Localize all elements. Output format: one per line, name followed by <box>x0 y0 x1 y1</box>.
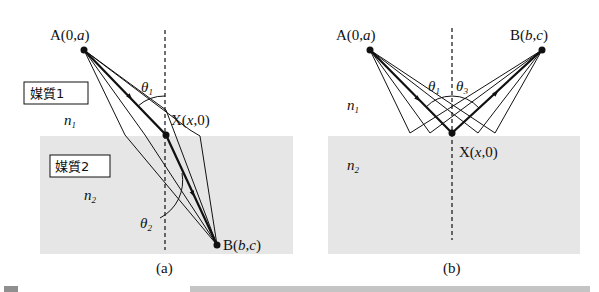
point-B-a <box>214 242 221 249</box>
n1-label-b: n1 <box>347 97 359 115</box>
point-X-b <box>449 130 456 137</box>
medium1-label: 媒質1 <box>30 86 64 101</box>
figure-a: A(0,a) X(x,0) B(b,c) θ1 θ2 媒質1 媒質2 n1 n2… <box>24 27 293 277</box>
point-B-b <box>539 47 546 54</box>
label-A-b: A(0,a) <box>336 27 376 44</box>
point-A-a <box>81 47 88 54</box>
medium2-label: 媒質2 <box>55 159 89 174</box>
figure-b: A(0,a) B(b,c) X(x,0) θ1 θ3 n1 n2 (b) <box>328 27 580 277</box>
theta1-label-a: θ1 <box>141 79 153 97</box>
point-X-a <box>163 132 170 139</box>
label-X-b: X(x,0) <box>459 144 498 161</box>
cutoff-caption-strip <box>0 286 599 292</box>
diagram-canvas: A(0,a) X(x,0) B(b,c) θ1 θ2 媒質1 媒質2 n1 n2… <box>0 0 599 292</box>
medium2-region-b <box>328 136 580 254</box>
caption-b: (b) <box>443 260 461 277</box>
label-A-a: A(0,a) <box>50 27 90 44</box>
caption-a: (a) <box>156 260 173 277</box>
label-B-a: B(b,c) <box>223 237 261 254</box>
theta1-label-b: θ1 <box>428 78 440 96</box>
theta3-label-b: θ3 <box>456 78 468 96</box>
label-X-a: X(x,0) <box>171 112 210 129</box>
label-B-b: B(b,c) <box>510 27 548 44</box>
point-A-b <box>367 47 374 54</box>
n1-label-a: n1 <box>64 112 76 130</box>
